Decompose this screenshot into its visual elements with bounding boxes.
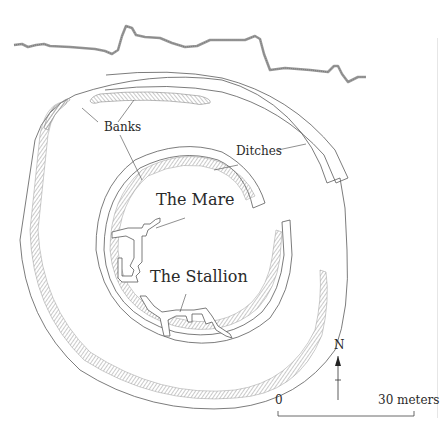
- scale-bar: [278, 411, 414, 416]
- compass-north-label: N: [334, 338, 345, 352]
- scale-end-label: 30 meters: [378, 393, 439, 407]
- label-banks: Banks: [104, 120, 141, 134]
- label-the-mare: The Mare: [156, 190, 235, 209]
- site-plan: [0, 0, 444, 436]
- label-the-stallion: The Stallion: [150, 267, 248, 286]
- label-ditches: Ditches: [236, 144, 282, 158]
- north-arrow-icon: [335, 356, 341, 400]
- scale-start-label: 0: [275, 393, 283, 407]
- outer-bank: [30, 92, 327, 399]
